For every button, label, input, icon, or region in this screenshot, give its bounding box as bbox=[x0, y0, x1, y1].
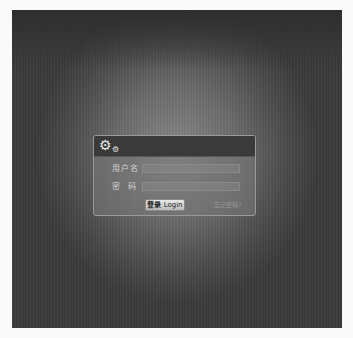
username-row: 用户名 bbox=[94, 163, 255, 175]
small-gear-icon: ⚙ bbox=[112, 145, 119, 154]
username-input[interactable] bbox=[142, 164, 240, 173]
dialog-header: ⚙ ⚙ bbox=[94, 136, 255, 157]
password-input[interactable] bbox=[142, 182, 240, 191]
username-label: 用户名 bbox=[112, 163, 139, 175]
forgot-password-link[interactable]: 忘记密码? bbox=[214, 200, 241, 209]
login-dialog: ⚙ ⚙ 用户名 密 码 登录 Login 忘记密码? bbox=[93, 135, 256, 216]
login-button-label-cn: 登录 bbox=[147, 201, 161, 209]
background-shade bbox=[12, 10, 342, 70]
gear-icon: ⚙ bbox=[99, 137, 112, 153]
password-row: 密 码 bbox=[94, 181, 255, 193]
login-button-label-en: Login bbox=[164, 201, 183, 209]
password-label: 密 码 bbox=[112, 181, 137, 193]
login-button[interactable]: 登录 Login bbox=[145, 199, 185, 211]
